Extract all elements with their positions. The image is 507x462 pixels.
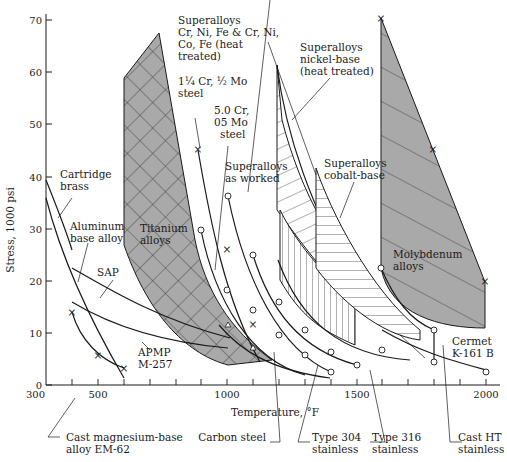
x-ticks: [72, 379, 486, 385]
x-axis: 300 500 1000 1500 2000 Temperature, °F: [26, 379, 500, 418]
label-nickel-base-3: (heat treated): [300, 65, 374, 77]
label-cartridge-brass-2: brass: [60, 180, 89, 192]
x-tick-1000: 1000: [214, 389, 239, 400]
label-cermet-1: Cermet: [452, 335, 492, 347]
label-molybdenum-1: Molybdenum: [393, 248, 463, 260]
label-magnesium-2: alloy EM-62: [66, 443, 130, 455]
y-tick-20: 20: [29, 276, 42, 287]
svg-text:×: ×: [429, 143, 438, 155]
label-cr5-steel-2: 05 Mo: [214, 116, 248, 128]
y-tick-40: 40: [29, 172, 42, 183]
svg-text:×: ×: [223, 243, 232, 255]
label-cast-ht-2: stainless: [458, 443, 504, 455]
label-titanium-1: Titanium: [140, 222, 188, 234]
label-superalloys-cr-2: Cr, Ni, Fe & Cr, Ni,: [178, 26, 279, 38]
label-superalloys-cr-3: Co, Fe (heat: [178, 38, 244, 50]
label-cr-mo-steel-2: steel: [178, 87, 204, 99]
label-type304-2: stainless: [312, 443, 358, 455]
label-nickel-base-2: nickel-base: [300, 53, 360, 65]
label-apmp-1: APMP: [137, 346, 170, 358]
svg-text:×: ×: [94, 349, 103, 361]
x-tick-300: 300: [26, 389, 45, 400]
svg-text:×: ×: [194, 143, 203, 155]
y-tick-50: 50: [29, 119, 42, 130]
x-tick-500: 500: [88, 389, 107, 400]
label-nickel-base-1: Superalloys: [300, 41, 363, 53]
svg-text:×: ×: [377, 12, 386, 24]
svg-text:×: ×: [120, 362, 129, 374]
label-cermet-2: K-161 B: [452, 347, 494, 359]
label-superalloys-cr-4: treated): [178, 50, 221, 62]
x-tick-1500: 1500: [344, 389, 369, 400]
label-sap: SAP: [97, 266, 119, 278]
y-tick-30: 30: [29, 224, 42, 235]
label-cast-ht-1: Cast HT: [458, 431, 501, 443]
chart-svg: 0 10 20 30 40 50 60 70 Stress, 1000 psi: [0, 0, 507, 462]
label-magnesium-1: Cast magnesium-base: [66, 431, 183, 443]
label-apmp-2: M-257: [138, 358, 172, 370]
y-axis: 0 10 20 30 40 50 60 70 Stress, 1000 psi: [4, 14, 52, 391]
svg-text:×: ×: [481, 275, 490, 287]
label-cr5-steel-1: 5.0 Cr,: [214, 104, 249, 116]
label-aluminum-2: base alloy: [70, 232, 123, 244]
label-type316-2: stainless: [372, 443, 418, 455]
label-type316-1: Type 316: [372, 431, 422, 443]
label-cobalt-base-2: cobalt-base: [324, 169, 385, 181]
creep-stress-chart: 0 10 20 30 40 50 60 70 Stress, 1000 psi: [0, 0, 507, 462]
label-carbon-steel: Carbon steel: [198, 431, 266, 443]
label-cr5-steel-3: steel: [220, 128, 246, 140]
label-superalloys-cr-1: Superalloys: [178, 14, 241, 26]
svg-text:×: ×: [249, 318, 258, 330]
y-axis-title: Stress, 1000 psi: [4, 187, 16, 273]
x-tick-2000: 2000: [473, 389, 498, 400]
label-cartridge-brass-1: Cartridge: [60, 168, 112, 180]
label-as-worked-1: Superalloys: [225, 160, 288, 172]
label-type304-1: Type 304: [312, 431, 362, 443]
label-aluminum-1: Aluminum: [69, 220, 125, 232]
label-cobalt-base-1: Superalloys: [324, 157, 387, 169]
y-tick-60: 60: [29, 67, 42, 78]
label-molybdenum-2: alloys: [393, 260, 424, 272]
label-as-worked-2: as worked: [225, 172, 280, 184]
label-titanium-2: alloys: [140, 234, 171, 246]
y-tick-10: 10: [29, 328, 42, 339]
molybdenum-band: [381, 18, 485, 328]
svg-text:×: ×: [68, 306, 77, 318]
label-cr-mo-steel-1: 1¼ Cr, ½ Mo: [178, 75, 247, 87]
y-tick-70: 70: [29, 15, 42, 26]
